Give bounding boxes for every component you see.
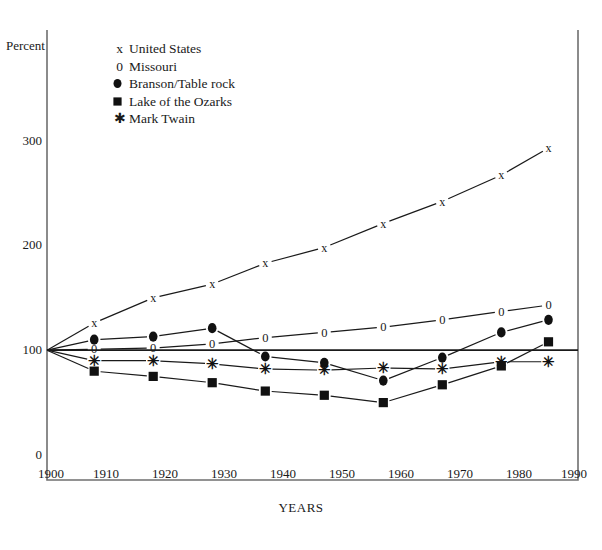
legend-label-mark-lake: Lake of the Ozarks	[129, 93, 232, 111]
asterisk-marker-icon: ✱	[112, 110, 127, 128]
svg-text:0: 0	[545, 298, 551, 312]
x-axis-label: YEARS	[0, 500, 602, 516]
legend-label-missouri: Missouri	[129, 58, 177, 76]
y-tick-200: 200	[2, 237, 42, 253]
svg-text:0: 0	[321, 326, 327, 340]
y-tick-300: 300	[2, 133, 42, 149]
x-tick-1990: 1990	[552, 466, 596, 482]
svg-text:✳: ✳	[542, 354, 555, 370]
svg-text:✳: ✳	[495, 354, 508, 370]
y-axis-label: Percent	[6, 38, 45, 54]
x-tick-1900: 1900	[29, 466, 73, 482]
chart-legend: x United States 0 Missouri Branson/Table…	[112, 40, 235, 128]
legend-item-united-states: x United States	[112, 40, 235, 58]
series-lake-of-the-ozarks	[47, 337, 553, 407]
legend-label-branson: Branson/Table rock	[129, 75, 235, 93]
series-missouri: 000000000	[47, 298, 552, 356]
svg-text:x: x	[91, 316, 97, 330]
x-tick-1980: 1980	[497, 466, 541, 482]
svg-text:x: x	[209, 277, 215, 291]
svg-text:✳: ✳	[436, 361, 449, 377]
svg-text:✳: ✳	[206, 356, 219, 372]
x-tick-1960: 1960	[379, 466, 423, 482]
legend-item-mark-twain: ✱ Mark Twain	[112, 110, 235, 128]
x-tick-1940: 1940	[261, 466, 305, 482]
legend-label-mark-twain: Mark Twain	[129, 110, 195, 128]
svg-text:0: 0	[380, 320, 386, 334]
chart-figure: Percent x United States 0 Missouri Brans…	[0, 0, 602, 550]
svg-text:x: x	[262, 256, 268, 270]
svg-text:✳: ✳	[259, 361, 272, 377]
x-tick-1970: 1970	[438, 466, 482, 482]
svg-text:0: 0	[439, 313, 445, 327]
legend-item-branson: Branson/Table rock	[112, 75, 235, 93]
svg-text:x: x	[380, 217, 386, 231]
legend-label-united-states: United States	[129, 40, 201, 58]
x-tick-1920: 1920	[143, 466, 187, 482]
svg-text:0: 0	[209, 337, 215, 351]
svg-text:✳: ✳	[318, 362, 331, 378]
x-tick-1950: 1950	[320, 466, 364, 482]
legend-item-lake-of-the-ozarks: Lake of the Ozarks	[112, 93, 235, 111]
series-united-states: xxxxxxxxx	[47, 141, 552, 350]
x-tick-1930: 1930	[202, 466, 246, 482]
svg-text:✳: ✳	[377, 360, 390, 376]
filled-square-marker-icon	[112, 96, 127, 107]
y-tick-100: 100	[2, 342, 42, 358]
svg-text:✳: ✳	[88, 353, 101, 369]
svg-text:x: x	[321, 241, 327, 255]
svg-text:✳: ✳	[147, 353, 160, 369]
svg-text:x: x	[439, 195, 445, 209]
filled-circle-marker-icon	[112, 78, 127, 89]
svg-text:x: x	[546, 141, 552, 155]
y-tick-0: 0	[2, 447, 42, 463]
svg-text:x: x	[498, 168, 504, 182]
legend-item-missouri: 0 Missouri	[112, 58, 235, 76]
svg-text:x: x	[150, 291, 156, 305]
x-tick-1910: 1910	[84, 466, 128, 482]
svg-text:0: 0	[498, 305, 504, 319]
svg-text:0: 0	[262, 331, 268, 345]
x-marker-icon: x	[112, 40, 127, 58]
zero-marker-icon: 0	[112, 58, 127, 76]
